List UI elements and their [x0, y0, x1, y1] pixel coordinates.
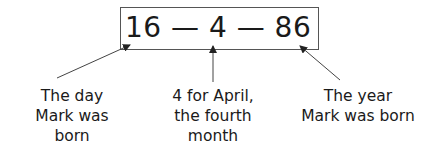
label-line: born	[12, 126, 132, 146]
label-line: The day	[12, 86, 132, 106]
label-line: month	[158, 126, 268, 146]
label-month: 4 for April, the fourth month	[158, 86, 268, 146]
arrow-to-year-icon	[300, 46, 340, 80]
label-line: Mark was	[12, 106, 132, 126]
label-day: The day Mark was born	[12, 86, 132, 146]
label-year: The year Mark was born	[288, 86, 428, 126]
arrow-to-day-icon	[57, 45, 130, 78]
label-line: 4 for April,	[158, 86, 268, 106]
label-line: The year	[288, 86, 428, 106]
label-line: the fourth	[158, 106, 268, 126]
label-line: Mark was born	[288, 106, 428, 126]
